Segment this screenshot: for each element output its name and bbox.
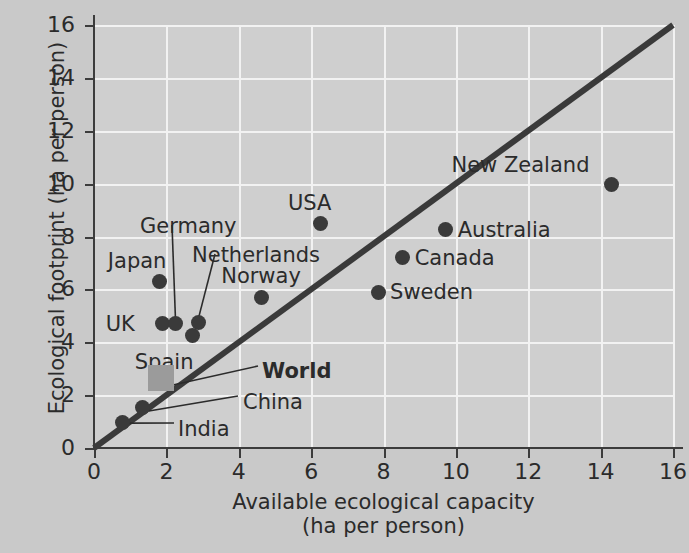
gridline-vertical xyxy=(239,25,241,448)
x-axis-tick-label: 16 xyxy=(650,461,689,483)
x-axis-tick xyxy=(94,449,96,458)
data-point-china[interactable] xyxy=(135,400,150,415)
y-axis-line xyxy=(93,15,95,449)
y-axis-tick xyxy=(85,25,94,27)
point-label-netherlands: Netherlands xyxy=(192,245,320,266)
point-label-germany: Germany xyxy=(140,216,237,237)
x-axis-title-main: Available ecological capacity xyxy=(94,490,673,514)
x-axis-tick xyxy=(673,449,675,458)
point-label-usa: USA xyxy=(288,193,331,214)
y-axis-tick xyxy=(85,131,94,133)
x-axis-tick-label: 2 xyxy=(143,461,189,483)
y-axis-tick xyxy=(85,237,94,239)
point-label-world: World xyxy=(262,361,331,382)
x-axis-tick-label: 6 xyxy=(288,461,334,483)
ecological-footprint-scatter-chart: 02468101214160246810121416 Ecological fo… xyxy=(0,0,689,553)
point-label-canada: Canada xyxy=(415,248,495,269)
x-axis-tick-label: 0 xyxy=(71,461,117,483)
y-axis-tick xyxy=(85,448,94,450)
point-label-china: China xyxy=(243,392,303,413)
x-axis-tick-label: 12 xyxy=(505,461,551,483)
x-axis-tick-label: 8 xyxy=(361,461,407,483)
point-label-india: India xyxy=(178,419,230,440)
point-label-sweden: Sweden xyxy=(390,282,473,303)
point-label-new-zealand: New Zealand xyxy=(451,155,589,176)
data-point-norway[interactable] xyxy=(254,290,269,305)
x-axis-tick-label: 10 xyxy=(433,461,479,483)
y-axis-tick xyxy=(85,395,94,397)
x-axis-tick xyxy=(311,449,313,458)
gridline-vertical xyxy=(673,25,675,448)
x-axis-tick xyxy=(166,449,168,458)
point-label-japan: Japan xyxy=(108,251,167,272)
data-point-sweden[interactable] xyxy=(371,285,386,300)
y-axis-tick xyxy=(85,342,94,344)
y-axis-tick xyxy=(85,78,94,80)
x-axis-line xyxy=(93,447,683,449)
data-point-world[interactable] xyxy=(148,365,174,391)
y-axis-tick-label: 0 xyxy=(35,437,75,459)
point-label-australia: Australia xyxy=(458,220,551,241)
data-point-india[interactable] xyxy=(115,415,130,430)
point-label-uk: UK xyxy=(106,314,135,335)
x-axis-tick-label: 4 xyxy=(216,461,262,483)
x-axis-title: Available ecological capacity (ha per pe… xyxy=(94,490,673,538)
y-axis-title: Ecological footprint (ha per person) xyxy=(45,28,69,428)
x-axis-tick xyxy=(239,449,241,458)
x-axis-tick xyxy=(456,449,458,458)
x-axis-tick-label: 14 xyxy=(578,461,624,483)
y-axis-tick xyxy=(85,289,94,291)
gridline-vertical xyxy=(384,25,386,448)
x-axis-tick xyxy=(384,449,386,458)
x-axis-tick xyxy=(601,449,603,458)
point-label-norway: Norway xyxy=(221,266,301,287)
x-axis-tick xyxy=(528,449,530,458)
y-axis-tick xyxy=(85,184,94,186)
gridline-vertical xyxy=(601,25,603,448)
gridline-vertical xyxy=(311,25,313,448)
x-axis-title-units: (ha per person) xyxy=(94,514,673,538)
